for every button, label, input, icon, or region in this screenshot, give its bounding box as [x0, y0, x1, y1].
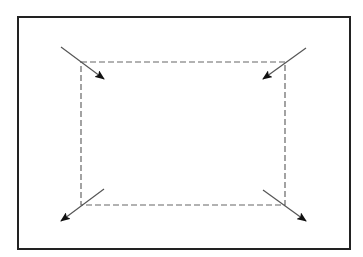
dashed-inner-rectangle — [81, 62, 285, 205]
arrow-top-left-icon — [61, 47, 104, 79]
arrow-group — [61, 47, 306, 221]
diagram-canvas — [0, 0, 363, 257]
